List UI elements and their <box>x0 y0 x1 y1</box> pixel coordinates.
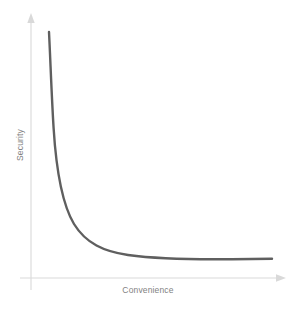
x-axis-arrow-icon <box>276 274 286 281</box>
chart-container: Security Convenience <box>0 0 296 309</box>
tradeoff-curve <box>49 32 272 259</box>
tradeoff-chart-canvas <box>0 0 296 309</box>
y-axis-label: Security <box>15 115 25 175</box>
x-axis-label: Convenience <box>0 285 296 295</box>
y-axis-arrow-icon <box>27 13 34 23</box>
